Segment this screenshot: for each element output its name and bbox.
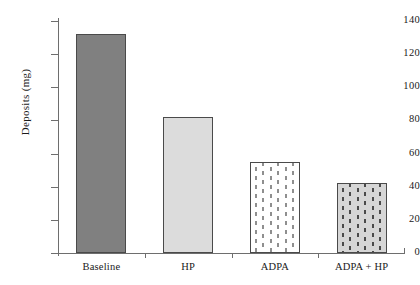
hatch-column — [342, 184, 344, 252]
x-tick-label: HP — [181, 261, 195, 272]
bar-hatch-pattern — [251, 163, 299, 252]
hatch-column — [349, 184, 351, 252]
x-tick-label: Baseline — [82, 261, 120, 272]
hatch-column — [379, 184, 381, 252]
hatch-column — [270, 163, 272, 252]
x-tick-label: ADPA + HP — [335, 261, 388, 272]
x-tick-label: ADPA — [261, 261, 289, 272]
plot-area — [58, 21, 405, 253]
x-tick — [145, 253, 146, 258]
hatch-column — [364, 184, 366, 252]
y-tick — [51, 120, 58, 121]
bar-adpa[interactable] — [250, 162, 300, 253]
y-axis-title: Deposits (mg) — [19, 69, 31, 136]
bar-hatch-pattern — [338, 184, 386, 252]
y-tick — [51, 87, 58, 88]
hatch-column — [372, 184, 374, 252]
bar-adpa-hp[interactable] — [337, 183, 387, 253]
hatch-column — [292, 163, 294, 252]
bar-baseline[interactable] — [76, 34, 126, 253]
bar-chart-figure: Deposits (mg) 020406080100120140 Baselin… — [0, 0, 420, 285]
y-tick — [51, 21, 58, 22]
hatch-column — [255, 163, 257, 252]
bar-hp[interactable] — [163, 117, 213, 253]
hatch-column — [357, 184, 359, 252]
hatch-column — [262, 163, 264, 252]
hatch-column — [277, 163, 279, 252]
x-tick — [232, 253, 233, 258]
y-tick — [51, 154, 58, 155]
y-tick — [51, 220, 58, 221]
y-tick — [51, 253, 58, 254]
x-tick — [318, 253, 319, 258]
y-tick — [51, 187, 58, 188]
hatch-column — [285, 163, 287, 252]
y-tick — [51, 54, 58, 55]
